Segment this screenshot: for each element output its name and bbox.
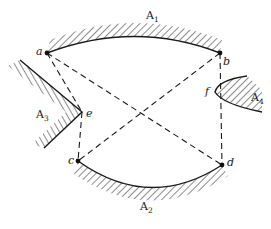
- label-a: a: [36, 45, 43, 58]
- edge-e-c: [78, 112, 82, 161]
- edge-b-d: [220, 53, 222, 165]
- label-c: c: [68, 154, 74, 167]
- point-a-dot: [45, 51, 50, 56]
- label-b: b: [223, 55, 230, 68]
- label-a1: A1: [145, 9, 159, 24]
- point-d-dot: [220, 163, 225, 168]
- point-b-dot: [218, 51, 223, 56]
- region-a3-wall: [8, 60, 82, 148]
- label-a3: A3: [35, 108, 49, 123]
- region-a1-wall: [47, 23, 222, 53]
- label-e: e: [86, 107, 93, 120]
- label-a2: A2: [139, 200, 153, 215]
- label-d: d: [227, 156, 234, 169]
- edge-b-c: [78, 53, 220, 161]
- label-f: f: [204, 85, 211, 98]
- visibility-diagram: a b c d e f A1 A2 A3 A4: [0, 0, 271, 229]
- region-a2-wall: [74, 161, 228, 201]
- point-c-dot: [76, 159, 81, 164]
